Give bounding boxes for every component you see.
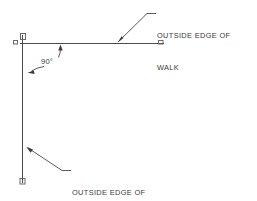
- angle-leader-left-arrowhead: [28, 70, 35, 74]
- bottom-callout-leader-arrowhead: [26, 147, 33, 153]
- callout-label-bottom: OUTSIDE EDGE OF WALK: [72, 167, 145, 201]
- corner-marker-left-square: [14, 41, 18, 45]
- bottom-callout-leader-line: [28, 148, 71, 171]
- angle-leader-up-arrowhead: [58, 45, 62, 51]
- top-callout-leader-line: [119, 14, 157, 42]
- angle-annotation-label: 90°: [41, 57, 53, 68]
- top-callout-leader-arrowhead: [118, 36, 124, 43]
- callout-label-top: OUTSIDE EDGE OF WALK: [157, 10, 230, 94]
- callout-label-bottom-line1: OUTSIDE EDGE OF: [72, 188, 145, 199]
- callout-label-top-line2: WALK: [157, 63, 230, 74]
- technical-drawing-canvas: OUTSIDE EDGE OF WALK OUTSIDE EDGE OF WAL…: [0, 0, 257, 201]
- callout-label-top-line1: OUTSIDE EDGE OF: [157, 31, 230, 42]
